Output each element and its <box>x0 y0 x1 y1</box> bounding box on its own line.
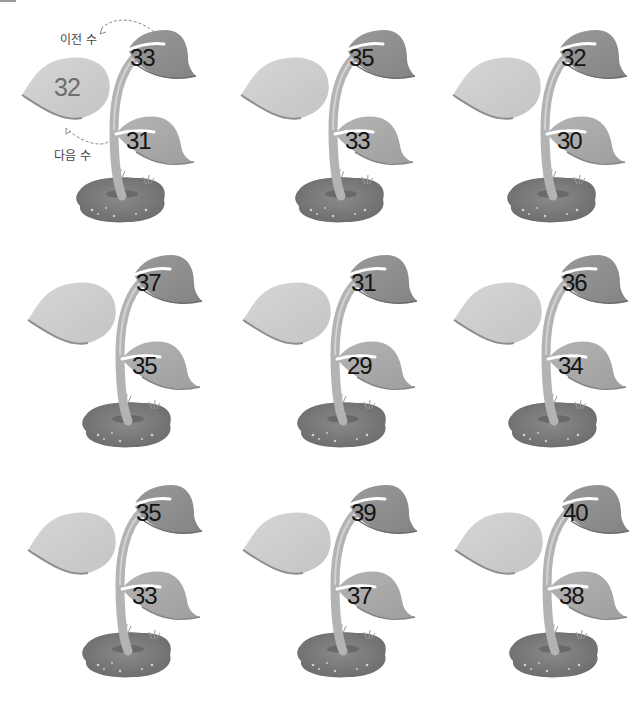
plant-illustration <box>24 225 224 457</box>
top-leaf-number: 32 <box>561 46 586 70</box>
plant-card-3: 32 30 <box>449 0 634 232</box>
plant-card-5: 31 29 <box>239 225 439 457</box>
top-leaf-number: 36 <box>562 271 587 295</box>
plant-illustration <box>239 225 439 457</box>
top-leaf-number: 35 <box>349 46 374 70</box>
top-leaf-number: 37 <box>136 271 161 295</box>
lower-leaf-number: 33 <box>132 584 157 608</box>
lower-leaf-number: 30 <box>557 129 582 153</box>
plant-illustration <box>451 455 634 687</box>
plant-card-6: 36 34 <box>450 225 634 457</box>
plant-card-2: 35 33 <box>237 0 437 232</box>
plant-illustration <box>449 0 634 232</box>
left-leaf-number: 32 <box>54 75 80 100</box>
top-leaf-number: 39 <box>351 501 376 525</box>
plant-grid: 이전 수 다음 수 32 33 31 35 33 32 30 37 35 31 … <box>0 0 634 712</box>
plant-illustration <box>239 455 439 687</box>
plant-illustration <box>24 455 224 687</box>
plant-illustration <box>18 0 218 232</box>
lower-leaf-number: 31 <box>126 129 151 153</box>
top-leaf-number: 33 <box>130 46 155 70</box>
top-leaf-number: 40 <box>563 501 588 525</box>
lower-leaf-number: 34 <box>558 354 583 378</box>
plant-illustration <box>237 0 437 232</box>
plant-card-7: 35 33 <box>24 455 224 687</box>
lower-leaf-number: 38 <box>559 584 584 608</box>
lower-leaf-number: 37 <box>347 584 372 608</box>
plant-card-8: 39 37 <box>239 455 439 687</box>
plant-card-1: 이전 수 다음 수 32 33 31 <box>18 0 218 232</box>
top-leaf-number: 31 <box>351 271 376 295</box>
lower-leaf-number: 33 <box>345 129 370 153</box>
previous-number-label: 이전 수 <box>60 30 97 47</box>
next-number-label: 다음 수 <box>54 146 91 163</box>
lower-leaf-number: 29 <box>347 354 372 378</box>
top-leaf-number: 35 <box>136 501 161 525</box>
plant-illustration <box>450 225 634 457</box>
lower-leaf-number: 35 <box>132 354 157 378</box>
plant-card-4: 37 35 <box>24 225 224 457</box>
plant-card-9: 40 38 <box>451 455 634 687</box>
